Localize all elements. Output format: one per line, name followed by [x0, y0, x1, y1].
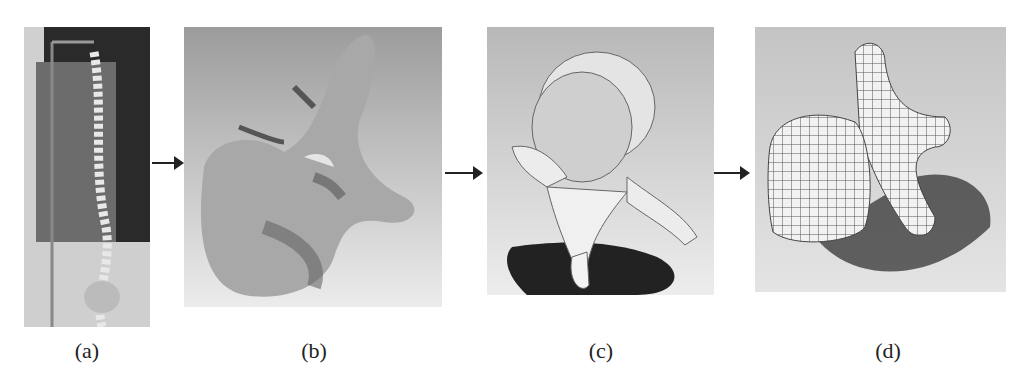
- panel-d-label: (d): [848, 338, 928, 364]
- panel-d-mesh: [755, 27, 1006, 292]
- panel-a-label: (a): [47, 338, 127, 364]
- panel-b-label: (b): [274, 338, 354, 364]
- panel-c-label: (c): [561, 338, 641, 364]
- arrow-b-to-c: [445, 172, 475, 174]
- arrow-a-to-b: [152, 162, 176, 164]
- panel-a-photo: [24, 27, 150, 327]
- panel-c-surface: [487, 27, 714, 295]
- arrow-c-to-d: [714, 172, 742, 174]
- panel-b-scan: [184, 27, 442, 307]
